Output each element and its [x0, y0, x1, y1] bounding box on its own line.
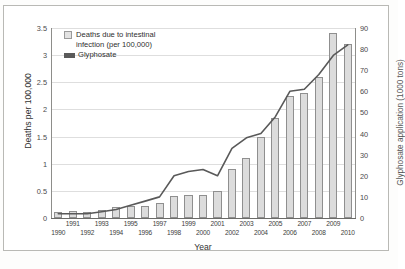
- legend-item-deaths: Deaths due to intestinal infection (per …: [64, 30, 192, 49]
- x-tick-label-2000: 2000: [190, 229, 216, 236]
- x-tick-label-2009: 2009: [320, 220, 346, 227]
- footer-smudge: [300, 259, 392, 265]
- x-tick-label-2001: 2001: [204, 220, 230, 227]
- left-axis-title: Deaths per 100,000: [23, 51, 33, 171]
- x-tick-label-2007: 2007: [291, 220, 317, 227]
- legend-label-glyphosate: Glyphosate: [78, 50, 116, 60]
- bar-1995: [127, 206, 135, 218]
- bar-2000: [199, 195, 207, 218]
- x-tick-label-2005: 2005: [262, 220, 288, 227]
- chart-frame: 00.511.522.533.5 0102030405060708090 199…: [3, 5, 389, 251]
- bar-2006: [286, 96, 294, 218]
- legend-label-deaths: Deaths due to intestinal infection (per …: [76, 30, 155, 49]
- bar-2005: [271, 118, 279, 218]
- right-axis-line: [355, 28, 356, 219]
- left-tick-label: 3.5: [21, 24, 47, 33]
- bar-1991: [69, 211, 77, 218]
- bar-1998: [170, 196, 178, 218]
- x-tick-label-2008: 2008: [306, 229, 332, 236]
- bar-2002: [228, 169, 236, 218]
- right-tick-label: 30: [360, 150, 386, 159]
- x-tick-label-1994: 1994: [103, 229, 129, 236]
- bar-swatch-icon: [64, 31, 72, 39]
- bar-1994: [112, 207, 120, 218]
- x-tick-label-1995: 1995: [118, 220, 144, 227]
- right-tick-label: 10: [360, 192, 386, 201]
- chart-legend: Deaths due to intestinal infection (per …: [64, 30, 192, 61]
- right-tick-label: 90: [360, 24, 386, 33]
- right-tick-label: 0: [360, 214, 386, 223]
- x-tick-label-2010: 2010: [335, 229, 361, 236]
- right-tick-label: 60: [360, 87, 386, 96]
- x-tick-label-2002: 2002: [219, 229, 245, 236]
- bar-1996: [141, 206, 149, 218]
- x-tick-label-2006: 2006: [277, 229, 303, 236]
- x-tick-label-1999: 1999: [176, 220, 202, 227]
- x-tick-label-2004: 2004: [248, 229, 274, 236]
- bar-2009: [329, 33, 337, 218]
- right-tick-label: 50: [360, 108, 386, 117]
- x-tick-label-1993: 1993: [89, 220, 115, 227]
- x-tick-label-1996: 1996: [132, 229, 158, 236]
- right-tick-label: 80: [360, 45, 386, 54]
- left-axis-line: [51, 28, 52, 219]
- legend-item-glyphosate: Glyphosate: [64, 50, 192, 60]
- x-tick-label-1990: 1990: [45, 229, 71, 236]
- left-tick-label: 0.5: [21, 186, 47, 195]
- legend-label-deaths-line2: infection (per 100,000): [76, 40, 152, 49]
- x-axis-tick-labels: 1990199119921993199419951996199719981999…: [51, 219, 355, 241]
- bar-2003: [242, 158, 250, 218]
- bar-2010: [344, 44, 352, 218]
- x-axis-title: Year: [51, 242, 355, 252]
- right-tick-label: 40: [360, 129, 386, 138]
- bar-1993: [98, 210, 106, 218]
- x-tick-label-1991: 1991: [60, 220, 86, 227]
- bar-2008: [315, 77, 323, 218]
- right-tick-label: 70: [360, 66, 386, 75]
- right-axis-title: Glyphosate application (1000 tons): [396, 43, 405, 203]
- x-tick-label-1997: 1997: [147, 220, 173, 227]
- x-tick-label-1992: 1992: [74, 229, 100, 236]
- bar-2001: [213, 191, 221, 218]
- bar-1997: [156, 203, 164, 218]
- line-swatch-icon: [64, 53, 75, 58]
- right-tick-label: 20: [360, 171, 386, 180]
- x-tick-label-1998: 1998: [161, 229, 187, 236]
- left-tick-label: 0: [21, 214, 47, 223]
- bar-2004: [257, 137, 265, 218]
- bar-1999: [184, 195, 192, 218]
- x-tick-label-2003: 2003: [233, 220, 259, 227]
- bar-2007: [300, 93, 308, 218]
- legend-label-deaths-line1: Deaths due to intestinal: [76, 30, 155, 39]
